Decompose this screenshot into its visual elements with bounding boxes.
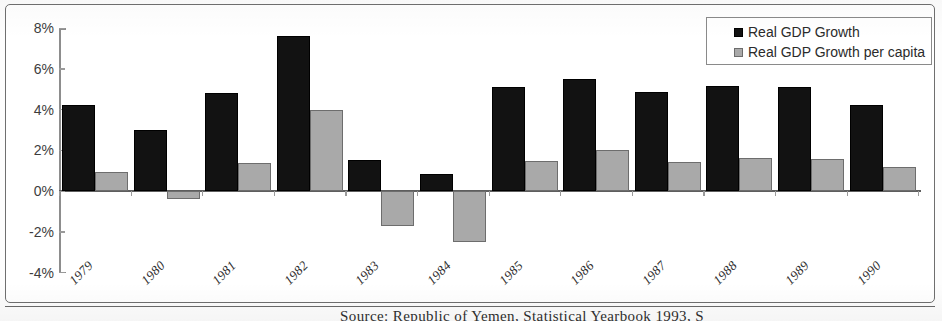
bar-1989-series-0 bbox=[778, 87, 811, 191]
bar-1982-series-0 bbox=[277, 36, 310, 191]
bar-1982-series-1 bbox=[310, 110, 343, 192]
legend-item-real-gdp-growth: Real GDP Growth bbox=[734, 24, 860, 40]
y-axis-tick-label: 2% bbox=[6, 143, 54, 144]
y-axis-tick-label: 6% bbox=[6, 62, 54, 63]
x-axis-tick bbox=[131, 191, 132, 196]
x-axis-tick bbox=[345, 191, 346, 196]
bar-1985-series-0 bbox=[492, 87, 525, 191]
x-axis-label-1980: 1980 bbox=[138, 258, 169, 289]
x-axis-tick bbox=[417, 191, 418, 196]
bar-1983-series-1 bbox=[381, 191, 414, 226]
x-axis-tick bbox=[703, 191, 704, 196]
x-axis-label-1979: 1979 bbox=[66, 258, 97, 289]
bar-1990-series-1 bbox=[883, 167, 916, 191]
y-axis-tick-label-text: -4% bbox=[10, 266, 54, 280]
bar-1979-series-0 bbox=[62, 105, 95, 191]
bar-1986-series-1 bbox=[596, 150, 629, 191]
legend-item-label: Real GDP Growth per capita bbox=[748, 45, 925, 59]
y-axis-tick-label: 4% bbox=[6, 103, 54, 104]
x-axis-tick bbox=[59, 191, 60, 196]
y-axis-tick-label-text: 0% bbox=[10, 184, 54, 198]
legend-swatch-icon bbox=[734, 28, 743, 37]
x-axis-tick bbox=[274, 191, 275, 196]
x-axis-tick bbox=[847, 191, 848, 196]
x-axis-tick bbox=[560, 191, 561, 196]
legend-item-real-gdp-growth-per-capita: Real GDP Growth per capita bbox=[734, 44, 925, 60]
x-axis-tick bbox=[202, 191, 203, 196]
legend-swatch-icon bbox=[734, 48, 743, 57]
bar-1990-series-0 bbox=[850, 105, 883, 191]
y-axis-tick-label-text: 8% bbox=[10, 21, 54, 35]
y-axis-tick bbox=[59, 272, 65, 273]
bar-1987-series-1 bbox=[668, 162, 701, 191]
x-axis-tick bbox=[632, 191, 633, 196]
y-axis-tick-label: -2% bbox=[6, 225, 54, 226]
x-axis-label-1985: 1985 bbox=[496, 258, 527, 289]
x-axis-label-1983: 1983 bbox=[352, 258, 383, 289]
bar-1984-series-0 bbox=[420, 174, 453, 191]
bar-1980-series-1 bbox=[167, 191, 200, 199]
chart-legend: Real GDP Growth Real GDP Growth per capi… bbox=[706, 17, 932, 65]
y-axis-tick-label-text: -2% bbox=[10, 225, 54, 239]
x-axis-label-1990: 1990 bbox=[854, 258, 885, 289]
y-axis-tick-label: -4% bbox=[6, 266, 54, 267]
caption-divider bbox=[5, 306, 935, 307]
x-axis-label-1984: 1984 bbox=[424, 258, 455, 289]
bar-1989-series-1 bbox=[811, 159, 844, 191]
bar-1980-series-0 bbox=[134, 130, 167, 191]
x-axis-tick bbox=[489, 191, 490, 196]
y-axis-tick-label: 8% bbox=[6, 21, 54, 22]
x-axis-label-1986: 1986 bbox=[567, 258, 598, 289]
bar-1987-series-0 bbox=[635, 92, 668, 191]
y-axis-tick-label-text: 2% bbox=[10, 143, 54, 157]
bar-1981-series-0 bbox=[205, 93, 238, 191]
y-axis-tick-label: 0% bbox=[6, 184, 54, 185]
legend-item-label: Real GDP Growth bbox=[748, 25, 860, 39]
y-axis-tick-label-text: 6% bbox=[10, 62, 54, 76]
bar-1986-series-0 bbox=[563, 79, 596, 191]
x-axis-tick bbox=[918, 191, 919, 196]
x-axis-label-1989: 1989 bbox=[782, 258, 813, 289]
x-axis-label-1982: 1982 bbox=[281, 258, 312, 289]
x-axis-tick bbox=[775, 191, 776, 196]
bar-1983-series-0 bbox=[348, 160, 381, 191]
bar-1981-series-1 bbox=[238, 163, 271, 191]
y-axis-tick bbox=[59, 28, 65, 29]
x-axis-label-1988: 1988 bbox=[710, 258, 741, 289]
y-axis-tick bbox=[59, 231, 65, 232]
bar-1979-series-1 bbox=[95, 172, 128, 191]
x-axis-label-1987: 1987 bbox=[639, 258, 670, 289]
y-axis-tick-label-text: 4% bbox=[10, 103, 54, 117]
bar-1988-series-0 bbox=[706, 86, 739, 191]
bar-1985-series-1 bbox=[525, 161, 558, 191]
x-axis-label-1981: 1981 bbox=[209, 258, 240, 289]
bar-1984-series-1 bbox=[453, 191, 486, 242]
bar-1988-series-1 bbox=[739, 158, 772, 191]
chart-frame: 8%6%4%2%0%-2%-4% 19791980198119821983198… bbox=[5, 4, 935, 303]
source-caption: Source: Republic of Yemen, Statistical Y… bbox=[340, 308, 940, 321]
scanned-page: 8%6%4%2%0%-2%-4% 19791980198119821983198… bbox=[0, 0, 942, 321]
y-axis-tick bbox=[59, 68, 65, 69]
